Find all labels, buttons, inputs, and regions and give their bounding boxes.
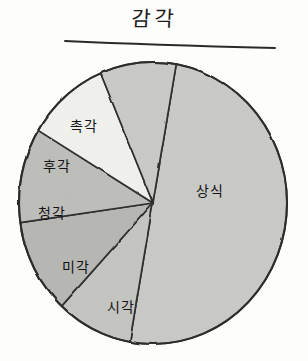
chart-canvas: 감각: [0, 0, 308, 361]
title-underline: [65, 41, 275, 48]
paper-grain: [19, 62, 287, 344]
pie-chart-figure: [0, 0, 308, 361]
